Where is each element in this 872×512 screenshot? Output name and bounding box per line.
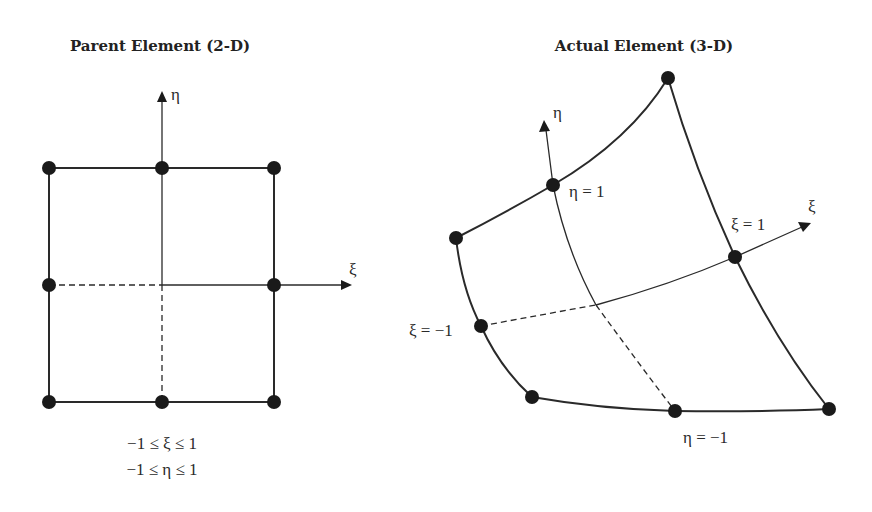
- node: [822, 402, 836, 416]
- node: [661, 71, 675, 85]
- diagram-canvas: Parent Element (2-D) η ξ −1 ≤ ξ ≤ 1 −1 ≤…: [0, 0, 872, 512]
- node: [525, 390, 539, 404]
- actual-nodes: [449, 71, 836, 418]
- label-eta-pos: η = 1: [569, 182, 604, 201]
- node: [42, 161, 56, 175]
- parent-xi-arrow-icon: [341, 280, 352, 290]
- node: [267, 161, 281, 175]
- node: [267, 395, 281, 409]
- parent-element-title: Parent Element (2-D): [70, 37, 250, 55]
- parent-eta-label: η: [171, 85, 180, 104]
- node: [155, 395, 169, 409]
- label-xi-neg: ξ = −1: [409, 321, 453, 340]
- actual-xi-dashed: [481, 305, 596, 326]
- node: [728, 250, 742, 264]
- constraint-eta: −1 ≤ η ≤ 1: [126, 460, 197, 479]
- node: [267, 278, 281, 292]
- constraint-xi: −1 ≤ ξ ≤ 1: [127, 434, 197, 453]
- actual-eta-axis: [546, 130, 596, 305]
- node: [449, 231, 463, 245]
- actual-xi-label: ξ: [808, 197, 816, 216]
- actual-left-edge: [456, 238, 532, 397]
- parent-eta-arrow-icon: [157, 91, 167, 102]
- actual-xi-arrow-icon: [798, 222, 811, 232]
- node: [474, 319, 488, 333]
- node: [668, 404, 682, 418]
- actual-top-edge: [456, 78, 668, 238]
- actual-eta-arrow-icon: [539, 120, 550, 132]
- node: [42, 278, 56, 292]
- actual-xi-axis: [596, 227, 802, 305]
- actual-eta-label: η: [553, 103, 562, 122]
- label-eta-neg: η = −1: [683, 428, 728, 447]
- actual-right-edge: [668, 78, 829, 409]
- parent-element: Parent Element (2-D) η ξ −1 ≤ ξ ≤ 1 −1 ≤…: [42, 37, 357, 479]
- actual-element: Actual Element (3-D) η ξ η = 1 ξ = 1 ξ =…: [409, 37, 836, 447]
- node: [155, 161, 169, 175]
- actual-eta-dashed: [596, 305, 675, 411]
- parent-xi-label: ξ: [349, 260, 357, 279]
- actual-element-title: Actual Element (3-D): [554, 37, 733, 55]
- label-xi-pos: ξ = 1: [731, 215, 765, 234]
- node: [42, 395, 56, 409]
- node: [546, 178, 560, 192]
